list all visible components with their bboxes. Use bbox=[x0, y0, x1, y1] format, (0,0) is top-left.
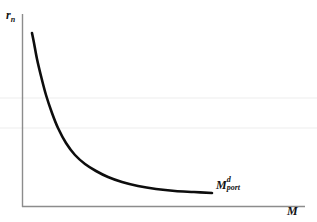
curve-label-subscript: port bbox=[227, 184, 240, 192]
money-demand-chart: rn M Mdport bbox=[0, 0, 317, 222]
demand-curve-group bbox=[32, 33, 212, 193]
curve-label: Mdport bbox=[216, 179, 227, 191]
chart-canvas bbox=[0, 0, 317, 222]
y-axis-label: rn bbox=[6, 9, 15, 21]
money-demand-curve bbox=[32, 33, 212, 193]
y-axis-label-main: r bbox=[6, 8, 11, 22]
curve-label-main: M bbox=[216, 178, 227, 192]
x-axis-label: M bbox=[287, 205, 298, 217]
axes bbox=[22, 14, 305, 207]
x-axis-label-main: M bbox=[287, 204, 298, 218]
y-axis-label-subscript: n bbox=[11, 15, 15, 24]
